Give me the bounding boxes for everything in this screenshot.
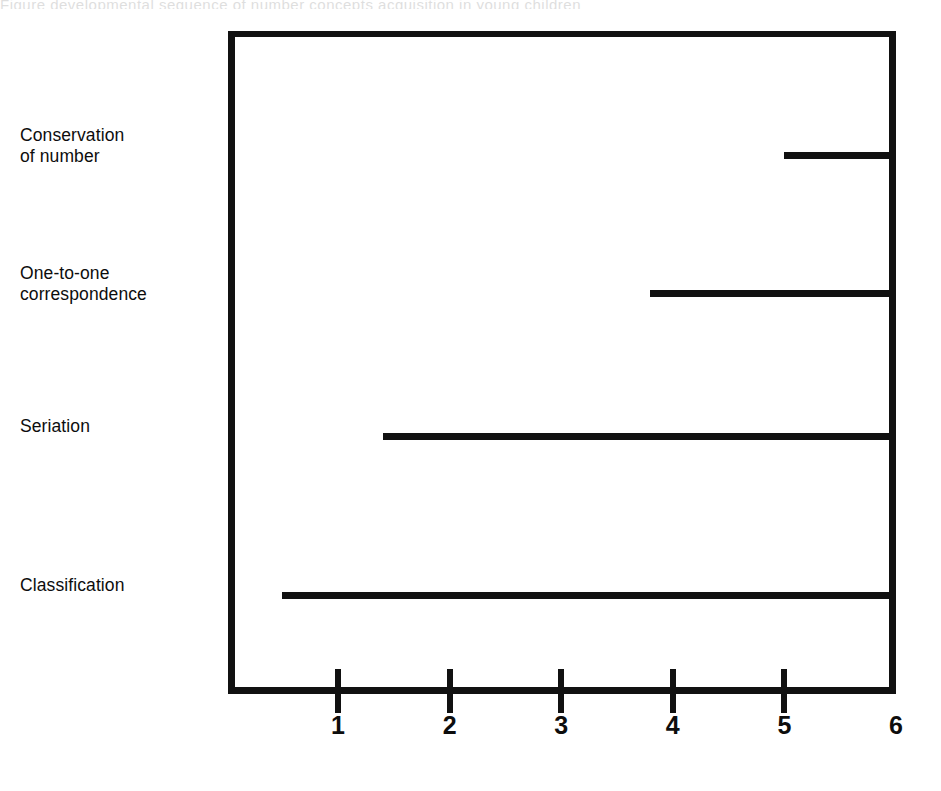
x-axis-tick-label-5: 5 [764, 711, 804, 740]
x-axis-tick-2 [447, 669, 453, 713]
y-axis-label-line: Conservation [20, 125, 220, 146]
figure-container: Figure developmental sequence of number … [0, 0, 941, 791]
x-axis-tick-4 [670, 669, 676, 713]
y-axis-label-line: of number [20, 146, 220, 167]
x-axis-tick-label-3: 3 [541, 711, 581, 740]
bar-seriation [383, 433, 896, 440]
x-axis-tick-5 [781, 669, 787, 713]
x-axis-tick-label-4: 4 [653, 711, 693, 740]
clipped-caption-artifact: Figure developmental sequence of number … [0, 0, 941, 9]
y-axis-label-seriation: Seriation [20, 416, 220, 437]
y-axis-label-conservation-of-number: Conservation of number [20, 125, 220, 167]
bar-conservation-of-number [784, 152, 896, 159]
x-axis-tick-1 [335, 669, 341, 713]
y-axis-label-classification: Classification [20, 575, 220, 596]
y-axis-label-one-to-one-correspondence: One-to-one correspondence [20, 263, 220, 305]
bar-classification [282, 592, 896, 599]
x-axis-tick-3 [558, 669, 564, 713]
y-axis-label-line: correspondence [20, 284, 220, 305]
y-axis-label-line: Seriation [20, 416, 220, 437]
x-axis-tick-label-6: 6 [876, 711, 916, 740]
x-axis-tick-label-2: 2 [430, 711, 470, 740]
bar-one-to-one-correspondence [650, 290, 896, 297]
x-axis-tick-label-1: 1 [318, 711, 358, 740]
y-axis-label-line: One-to-one [20, 263, 220, 284]
y-axis-label-line: Classification [20, 575, 220, 596]
